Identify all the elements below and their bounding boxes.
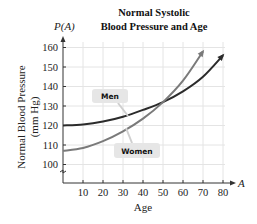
women-leader-line <box>126 128 132 143</box>
y-axis-label-line-1: Normal Blood Pressure <box>15 65 27 168</box>
y-tick-label: 120 <box>42 120 58 131</box>
y-tick-label: 160 <box>42 42 58 53</box>
x-tick-label: 40 <box>138 187 149 198</box>
women-tag-label: Women <box>121 147 152 156</box>
y-axis-arrow-icon <box>61 36 66 42</box>
x-tick-label: 20 <box>98 187 109 198</box>
axis-break-icon <box>60 170 66 173</box>
axes <box>60 36 236 186</box>
x-axis-arrow-icon <box>230 181 236 186</box>
x-tick-label: 50 <box>158 187 169 198</box>
x-tick-label: 60 <box>178 187 189 198</box>
y-tick-label: 100 <box>42 159 58 170</box>
title-line-2: Blood Pressure and Age <box>101 21 208 32</box>
women-curve <box>63 51 203 150</box>
y-axis-label-line-2: (mm Hg) <box>28 96 41 137</box>
x-axis-label: Age <box>134 201 152 213</box>
x-variable-label: A <box>237 177 245 189</box>
chart-title: Normal Systolic Blood Pressure and Age <box>101 7 208 32</box>
y-tick-label: 110 <box>43 140 58 151</box>
men-tag-label: Men <box>101 92 119 101</box>
x-tick-label: 30 <box>118 187 129 198</box>
y-function-label: P(A) <box>53 20 75 33</box>
y-tick-label: 130 <box>42 101 58 112</box>
blood-pressure-chart: Normal Systolic Blood Pressure and Age P… <box>0 0 257 224</box>
x-tick-label: 10 <box>78 187 89 198</box>
x-tick-label: 70 <box>198 187 209 198</box>
x-tick-label: 80 <box>218 187 229 198</box>
y-tick-label: 150 <box>42 62 58 73</box>
y-axis-label: Normal Blood Pressure (mm Hg) <box>15 65 41 168</box>
grid <box>63 42 225 183</box>
title-line-1: Normal Systolic <box>118 7 190 18</box>
series <box>63 50 224 151</box>
tick-labels: 1020304050607080100110120130140150160 <box>42 42 228 198</box>
y-tick-label: 140 <box>42 81 58 92</box>
